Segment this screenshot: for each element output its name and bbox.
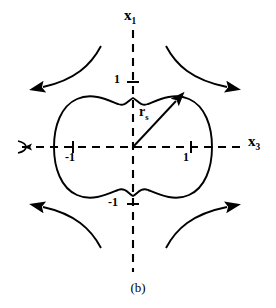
axis-label-x1-base: x: [124, 7, 132, 23]
tick-label-x-negative-1: -1: [65, 151, 75, 163]
figure-canvas: [0, 0, 276, 308]
axis-label-x3-sub: 3: [256, 142, 261, 152]
axis-label-x1: x1: [124, 8, 136, 26]
figure-container: x1 x3 rs 1 -1 -1 1 (b): [0, 0, 276, 308]
field-arrow-lower-right: [166, 207, 227, 248]
vector-label-rs: rs: [139, 105, 149, 121]
horizontal-axis-group: [18, 141, 243, 153]
axis-label-x3-base: x: [248, 133, 256, 149]
field-arrow-upper-right: [166, 46, 227, 87]
field-arrow-lower-left: [43, 207, 101, 248]
axis-label-x3: x3: [248, 134, 260, 152]
tick-label-y-positive-1: 1: [114, 73, 120, 85]
axis-label-x1-sub: 1: [132, 16, 137, 26]
field-arrow-upper-left: [43, 46, 101, 87]
figure-caption: (b): [0, 280, 276, 296]
tick-label-x-positive-1: 1: [183, 151, 189, 163]
vector-label-rs-sub: s: [145, 112, 148, 122]
tick-label-y-negative-1: -1: [108, 196, 118, 208]
